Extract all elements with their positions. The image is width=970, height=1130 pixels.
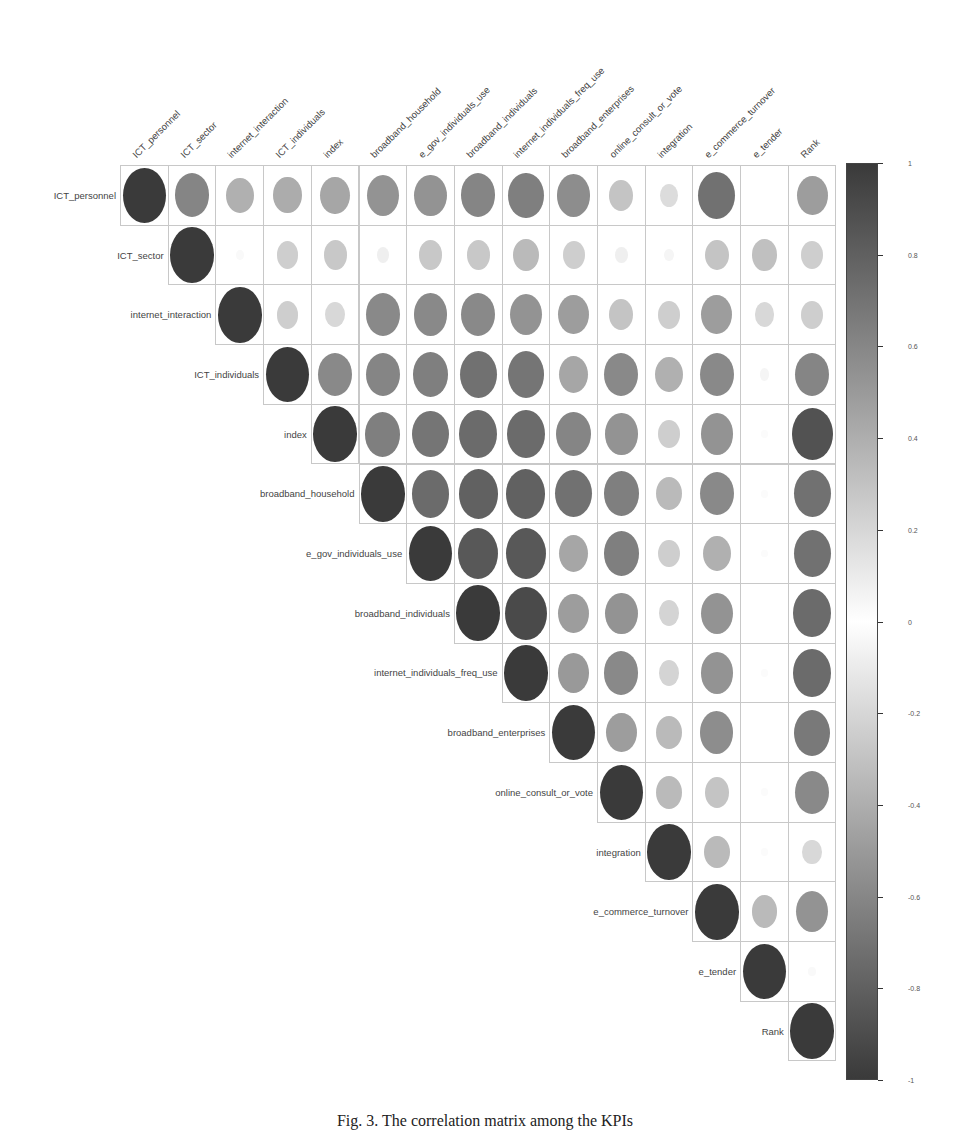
colorbar-tick — [878, 346, 883, 347]
correlation-cell — [740, 344, 789, 405]
correlation-circle — [559, 535, 588, 572]
colorbar-tick — [878, 713, 883, 714]
row-label: broadband_individuals — [355, 607, 450, 618]
correlation-cell — [645, 762, 694, 823]
correlation-circle — [377, 247, 389, 263]
correlation-circle — [504, 645, 548, 701]
correlation-cell — [549, 284, 598, 345]
row-label: internet_individuals_freq_use — [374, 667, 498, 678]
correlation-cell — [645, 523, 694, 584]
correlation-circle — [743, 944, 787, 1000]
correlation-cell — [597, 225, 646, 286]
correlation-cell — [740, 464, 789, 525]
correlation-cell — [692, 344, 741, 405]
correlation-circle — [606, 713, 637, 752]
correlation-circle — [701, 413, 733, 454]
correlation-cell — [597, 404, 646, 465]
correlation-cell — [645, 464, 694, 525]
correlation-circle — [366, 293, 400, 336]
correlation-cell — [692, 165, 741, 226]
correlation-circle — [266, 347, 310, 403]
correlation-circle — [419, 240, 442, 269]
correlation-circle — [801, 241, 823, 269]
figure-caption: Fig. 3. The correlation matrix among the… — [0, 1112, 970, 1130]
correlation-cell — [740, 702, 789, 763]
correlation-cell — [406, 165, 455, 226]
correlation-circle — [761, 550, 767, 558]
correlation-circle — [796, 891, 828, 932]
correlation-circle — [460, 351, 497, 398]
correlation-circle — [700, 353, 734, 396]
correlation-circle — [609, 180, 633, 211]
correlation-circle — [461, 173, 495, 217]
colorbar-tick-label: -0.8 — [908, 985, 920, 992]
correlation-circle — [273, 177, 301, 213]
correlation-cell — [549, 702, 598, 763]
correlation-circle — [412, 411, 449, 458]
correlation-cell — [549, 165, 598, 226]
correlation-cell — [597, 284, 646, 345]
correlation-circle — [558, 295, 589, 334]
row-label: broadband_household — [260, 488, 355, 499]
correlation-cell — [597, 464, 646, 525]
correlation-cell — [454, 583, 503, 644]
correlation-cell — [454, 225, 503, 286]
correlation-circle — [605, 413, 637, 454]
correlation-cell — [502, 464, 551, 525]
correlation-cell — [645, 284, 694, 345]
correlation-circle — [459, 469, 498, 519]
correlation-circle — [506, 469, 545, 519]
correlation-circle — [226, 178, 254, 213]
correlation-circle — [458, 528, 498, 579]
correlation-circle — [701, 652, 733, 693]
correlation-cell — [597, 523, 646, 584]
colorbar-tick-label: 0.4 — [908, 435, 918, 442]
correlation-cell — [359, 344, 408, 405]
correlation-circle — [361, 466, 405, 522]
colorbar — [846, 163, 878, 1080]
correlation-cell — [788, 225, 837, 286]
correlation-cell — [597, 583, 646, 644]
correlation-cell — [454, 523, 503, 584]
colorbar-tick — [878, 622, 883, 623]
correlation-cell — [788, 583, 837, 644]
correlation-cell — [406, 404, 455, 465]
correlation-circle — [658, 420, 680, 448]
correlation-cell — [597, 762, 646, 823]
correlation-circle — [695, 884, 739, 940]
correlation-cell — [597, 165, 646, 226]
correlation-circle — [365, 412, 400, 457]
colorbar-tick — [878, 530, 883, 531]
correlation-circle — [507, 410, 545, 458]
correlation-circle — [175, 173, 209, 217]
correlation-cell — [645, 165, 694, 226]
correlation-cell — [788, 941, 837, 1002]
correlation-cell — [645, 822, 694, 883]
correlation-circle — [559, 356, 588, 393]
row-label: e_gov_individuals_use — [306, 548, 402, 559]
correlation-circle — [792, 408, 833, 460]
row-label: broadband_enterprises — [448, 727, 546, 738]
correlation-cell — [645, 583, 694, 644]
correlation-cell — [645, 344, 694, 405]
correlation-circle — [656, 477, 682, 510]
colorbar-tick — [878, 255, 883, 256]
correlation-circle — [752, 239, 777, 271]
correlation-cell — [406, 284, 455, 345]
correlation-circle — [655, 357, 683, 392]
correlation-cell — [740, 225, 789, 286]
correlation-circle — [123, 168, 167, 224]
correlation-cell — [788, 643, 837, 704]
correlation-cell — [549, 643, 598, 704]
colorbar-tick-label: 1 — [908, 160, 912, 167]
correlation-circle — [558, 653, 590, 693]
row-label: ICT_sector — [117, 249, 163, 260]
correlation-cell — [645, 702, 694, 763]
correlation-circle — [609, 299, 633, 330]
correlation-circle — [367, 175, 399, 216]
correlation-circle — [698, 172, 735, 219]
row-label: integration — [596, 846, 640, 857]
correlation-cell — [263, 284, 312, 345]
correlation-circle — [658, 540, 680, 568]
